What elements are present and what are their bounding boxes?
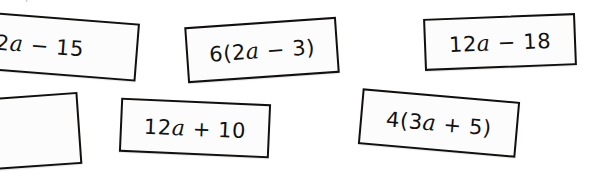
expression-card[interactable]: 6(2a − 3)	[184, 17, 340, 83]
expression-text: 4(3a + 5)	[385, 106, 493, 140]
expression-text: 12a + 10	[143, 113, 246, 142]
expression-text: 12a − 18	[448, 28, 551, 57]
expression-card[interactable]: 12a − 18	[423, 13, 577, 71]
expression-card[interactable]: 4(3a + 5)	[358, 88, 520, 158]
expression-text: 2a − 15	[0, 29, 85, 61]
expression-card[interactable]: 12a + 10	[119, 98, 271, 158]
expression-text: 6(2a − 3)	[208, 34, 315, 66]
expression-card[interactable]: 2a − 15	[0, 8, 140, 81]
clipped-header-text: Expression cards	[8, 0, 328, 3]
expression-card-partial[interactable]	[0, 92, 82, 172]
expression-card-scene: Expression cards 2a − 15 6(2a − 3) 12a −…	[0, 0, 600, 178]
